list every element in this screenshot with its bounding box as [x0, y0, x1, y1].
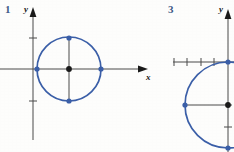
figure-3-point-left — [182, 102, 187, 107]
figure-3-y-axis-arrow-icon — [225, 9, 232, 19]
figure-3-point-bottom — [225, 145, 230, 150]
figure-3-plot — [0, 0, 234, 152]
figure-sheet: 1 y x 3 — [0, 0, 234, 152]
figure-3-point-center — [225, 102, 231, 108]
figure-3-point-top — [225, 59, 230, 64]
